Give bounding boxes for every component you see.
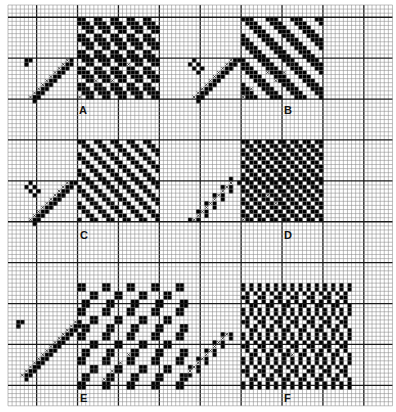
drawdown-cell-f	[270, 353, 274, 357]
drawdown-cell-c	[139, 214, 143, 218]
drawdown-cell-e	[82, 353, 86, 357]
drawdown-cell-d	[307, 214, 311, 218]
drawdown-cell-c	[147, 160, 151, 164]
drawdown-cell-e	[86, 349, 90, 353]
drawdown-cell-b	[253, 46, 257, 50]
drawdown-cell-d	[298, 160, 302, 164]
drawdown-cell-a	[82, 50, 86, 54]
drawdown-cell-b	[298, 25, 302, 29]
drawdown-cell-c	[98, 140, 102, 144]
drawdown-cell-f	[331, 361, 335, 365]
drawdown-cell-f	[257, 312, 261, 316]
drawdown-cell-e	[159, 353, 163, 357]
drawdown-cell-c	[106, 152, 110, 156]
drawdown-cell-e	[82, 377, 86, 381]
drawdown-cell-a	[110, 38, 114, 42]
drawdown-cell-d	[294, 189, 298, 193]
drawdown-cell-c	[131, 189, 135, 193]
filled-cell	[28, 58, 32, 62]
drawdown-cell-b	[249, 75, 253, 79]
filled-cell	[233, 58, 237, 62]
drawdown-cell-a	[110, 50, 114, 54]
drawdown-cell-f	[257, 320, 261, 324]
filled-cell	[65, 336, 69, 340]
drawdown-cell-b	[315, 38, 319, 42]
drawdown-cell-f	[307, 320, 311, 324]
drawdown-cell-c	[82, 189, 86, 193]
drawdown-cell-f	[266, 385, 270, 389]
drawdown-cell-d	[315, 201, 319, 205]
drawdown-cell-b	[302, 46, 306, 50]
drawdown-cell-d	[286, 210, 290, 214]
drawdown-cell-a	[127, 70, 131, 74]
drawdown-cell-c	[102, 197, 106, 201]
drawdown-cell-d	[249, 173, 253, 177]
drawdown-cell-f	[331, 304, 335, 308]
drawdown-cell-c	[78, 152, 82, 156]
drawdown-cell-d	[315, 214, 319, 218]
drawdown-cell-e	[139, 291, 143, 295]
drawdown-cell-a	[90, 30, 94, 34]
drawdown-cell-f	[343, 295, 347, 299]
drawdown-cell-a	[86, 75, 90, 79]
drawdown-cell-a	[86, 70, 90, 74]
drawdown-cell-b	[282, 58, 286, 62]
drawdown-cell-a	[127, 34, 131, 38]
drawdown-cell-f	[302, 349, 306, 353]
drawdown-cell-a	[98, 58, 102, 62]
drawdown-cell-d	[302, 140, 306, 144]
filled-cell	[65, 66, 69, 70]
drawdown-cell-c	[106, 197, 110, 201]
drawdown-cell-f	[262, 365, 266, 369]
drawdown-cell-c	[131, 193, 135, 197]
drawdown-cell-c	[135, 210, 139, 214]
drawdown-cell-f	[335, 316, 339, 320]
drawdown-cell-b	[241, 91, 245, 95]
drawdown-cell-e	[82, 328, 86, 332]
drawdown-cell-f	[323, 357, 327, 361]
drawdown-cell-c	[98, 189, 102, 193]
drawdown-cell-c	[151, 148, 155, 152]
drawdown-cell-d	[315, 152, 319, 156]
drawdown-cell-f	[253, 353, 257, 357]
drawdown-cell-d	[257, 165, 261, 169]
drawdown-cell-f	[311, 316, 315, 320]
drawdown-cell-d	[290, 201, 294, 205]
drawdown-cell-b	[270, 66, 274, 70]
drawdown-cell-a	[118, 87, 122, 91]
drawdown-cell-a	[131, 58, 135, 62]
drawdown-cell-f	[335, 304, 339, 308]
drawdown-cell-b	[262, 58, 266, 62]
drawdown-cell-c	[131, 144, 135, 148]
filled-cell	[61, 336, 65, 340]
drawdown-cell-d	[302, 173, 306, 177]
drawdown-cell-f	[335, 291, 339, 295]
drawdown-cell-b	[274, 25, 278, 29]
drawdown-cell-a	[143, 17, 147, 21]
drawdown-cell-e	[143, 365, 147, 369]
drawdown-cell-f	[343, 365, 347, 369]
drawdown-cell-a	[139, 46, 143, 50]
drawdown-cell-a	[118, 38, 122, 42]
drawdown-cell-f	[245, 295, 249, 299]
drawdown-cell-f	[290, 344, 294, 348]
drawdown-cell-b	[286, 58, 290, 62]
drawdown-cell-b	[294, 62, 298, 66]
drawdown-cell-b	[315, 58, 319, 62]
drawdown-cell-d	[253, 148, 257, 152]
drawdown-cell-c	[139, 201, 143, 205]
drawdown-cell-a	[98, 87, 102, 91]
drawdown-cell-b	[307, 50, 311, 54]
drawdown-cell-c	[131, 205, 135, 209]
drawdown-cell-f	[270, 324, 274, 328]
drawdown-cell-d	[290, 165, 294, 169]
drawdown-cell-c	[123, 197, 127, 201]
drawdown-cell-c	[90, 185, 94, 189]
drawdown-cell-a	[131, 70, 135, 74]
drawdown-cell-f	[274, 361, 278, 365]
drawdown-cell-a	[110, 17, 114, 21]
drawdown-cell-c	[147, 140, 151, 144]
drawdown-cell-b	[290, 58, 294, 62]
drawdown-cell-e	[184, 353, 188, 357]
drawdown-cell-d	[270, 140, 274, 144]
